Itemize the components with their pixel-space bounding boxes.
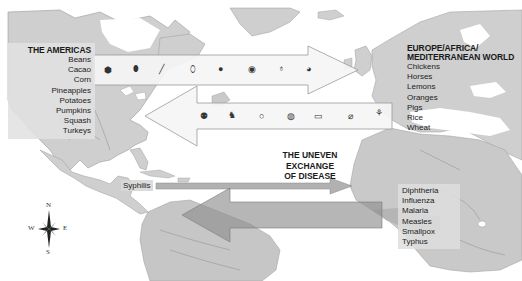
disease-item: Influenza xyxy=(402,196,456,206)
disease-item: Measles xyxy=(402,217,456,227)
americas-item: Squash xyxy=(12,116,91,126)
lemon-icon: ○ xyxy=(259,111,264,121)
rice-icon: ⌀ xyxy=(348,111,353,121)
disease-title-line3: OF DISEASE xyxy=(262,171,358,182)
disease-item: Typhus xyxy=(402,237,456,247)
compass-north-label: N xyxy=(46,201,51,209)
diseases-to-americas-list: Diphtheria Influenza Malaria Measles Sma… xyxy=(398,184,460,249)
wheat-icon: ⚘ xyxy=(375,108,383,118)
cacao-icon: ⬮ xyxy=(133,64,139,74)
syphilis-label: Syphilis xyxy=(121,180,153,191)
compass-rose-icon xyxy=(36,208,62,250)
disease-item: Smallpox xyxy=(402,227,456,237)
pineapple-icon: ⬯ xyxy=(190,64,196,74)
squash-icon: ♁ xyxy=(278,63,285,73)
europe-item: Chickens xyxy=(407,62,515,72)
orange-icon: ◍ xyxy=(287,111,295,121)
americas-item: Turkeys xyxy=(12,126,91,136)
compass-south-label: S xyxy=(46,248,50,256)
beans-icon: ⬢ xyxy=(104,65,112,75)
americas-item: Pineapples xyxy=(12,86,91,96)
europe-item: Rice xyxy=(407,113,515,123)
americas-item: Beans xyxy=(12,55,91,65)
disease-item: Malaria xyxy=(402,206,456,216)
horse-icon: ♞ xyxy=(228,110,236,120)
turkey-icon: ◕ xyxy=(306,64,311,74)
pumpkin-icon: ◉ xyxy=(248,64,256,74)
disease-exchange-title: THE UNEVEN EXCHANGE OF DISEASE xyxy=(262,150,358,182)
americas-title: THE AMERICAS xyxy=(12,46,91,55)
disease-item: Diphtheria xyxy=(402,186,456,196)
americas-exports-list: THE AMERICAS Beans Cacao Corn Pineapples… xyxy=(8,43,95,139)
compass-east-label: E xyxy=(63,224,67,232)
compass-west-label: W xyxy=(28,224,35,232)
americas-item: Cacao xyxy=(12,65,91,75)
pig-icon: ▭ xyxy=(314,111,323,121)
potato-icon: ● xyxy=(218,64,223,74)
americas-item: Pumpkins xyxy=(12,106,91,116)
europe-title-line2: MEDITERRANEAN WORLD xyxy=(407,53,515,62)
chicken-icon: ⚉ xyxy=(200,111,208,121)
europe-item: Oranges xyxy=(407,93,515,103)
europe-item: Pigs xyxy=(407,103,515,113)
corn-icon: ╱ xyxy=(159,64,164,74)
europe-exports-list: EUROPE/AFRICA/ MEDITERRANEAN WORLD Chick… xyxy=(403,42,519,135)
europe-item: Wheat xyxy=(407,123,515,133)
americas-item: Corn xyxy=(12,75,91,85)
americas-item: Potatoes xyxy=(12,96,91,106)
disease-title-line2: EXCHANGE xyxy=(262,161,358,172)
disease-title-line1: THE UNEVEN xyxy=(262,150,358,161)
europe-item: Horses xyxy=(407,72,515,82)
europe-item: Lemons xyxy=(407,82,515,92)
